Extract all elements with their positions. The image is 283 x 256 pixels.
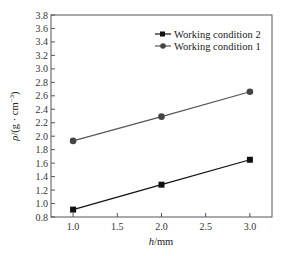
x-tick-label: 3.0: [244, 221, 257, 232]
y-tick-label: 3.0: [36, 63, 49, 74]
x-axis-ticks: 1.01.52.02.53.0: [67, 213, 256, 232]
y-tick-label: 3.8: [36, 10, 49, 21]
square-marker: [70, 207, 76, 213]
data-series: [70, 88, 253, 212]
y-tick-label: 0.8: [36, 212, 49, 223]
y-tick-label: 2.8: [36, 77, 49, 88]
circle-marker: [158, 113, 165, 120]
circle-marker: [70, 138, 77, 145]
legend-circle-marker: [160, 43, 166, 49]
y-tick-label: 1.4: [36, 171, 49, 182]
y-tick-label: 2.2: [36, 117, 49, 128]
y-tick-label: 2.4: [36, 104, 49, 115]
x-tick-label: 1.0: [67, 221, 80, 232]
y-tick-label: 3.4: [36, 36, 49, 47]
y-tick-label: 1.2: [36, 185, 49, 196]
y-tick-label: 2.6: [36, 90, 49, 101]
y-axis-ticks: 0.81.01.21.41.61.82.02.22.42.62.83.03.23…: [36, 10, 56, 223]
y-tick-label: 3.6: [36, 23, 49, 34]
legend-label: Working condition 2: [174, 29, 261, 40]
y-tick-label: 1.8: [36, 144, 49, 155]
circle-marker: [247, 88, 254, 95]
x-tick-label: 2.0: [155, 221, 168, 232]
legend: Working condition 2Working condition 1: [155, 29, 261, 52]
line-chart: 0.81.01.21.41.61.82.02.22.42.62.83.03.23…: [0, 0, 283, 256]
y-tick-label: 1.0: [36, 198, 49, 209]
y-tick-label: 2.0: [36, 131, 49, 142]
square-marker: [159, 182, 165, 188]
legend-label: Working condition 1: [174, 41, 261, 52]
square-marker: [247, 157, 253, 163]
x-tick-label: 2.5: [199, 221, 212, 232]
y-axis-label: ρ/(g · cm−3): [8, 91, 21, 142]
x-axis-label: h/mm: [149, 236, 174, 247]
y-tick-label: 3.2: [36, 50, 49, 61]
y-tick-label: 1.6: [36, 158, 49, 169]
x-tick-label: 1.5: [111, 221, 124, 232]
legend-square-marker: [160, 32, 165, 37]
